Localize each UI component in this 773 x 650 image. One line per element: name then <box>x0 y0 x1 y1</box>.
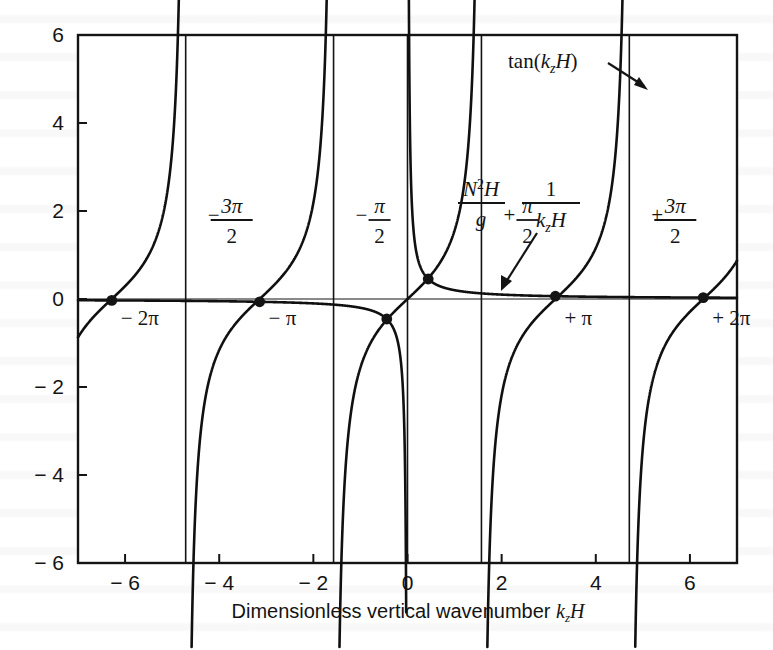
y-axis-tick-labels: − 6− 4− 20246 <box>34 23 64 574</box>
frac2-numerator: 1 <box>546 177 557 201</box>
intersection-dot <box>423 274 434 285</box>
fraction-denominator: 2 <box>522 224 533 248</box>
frac1-exponent: 2 <box>477 177 484 192</box>
x-tick-label: − 6 <box>110 571 140 594</box>
root-label-pos-pi: + π <box>564 306 592 330</box>
root-label-pos-2pi: + 2π <box>712 306 751 330</box>
y-tick-label: 0 <box>52 287 64 310</box>
x-tick-label: − 4 <box>204 571 234 594</box>
fraction-sign: + <box>503 203 515 227</box>
fraction-denominator: 2 <box>226 224 237 248</box>
fraction-numerator: π <box>522 194 533 218</box>
frac1-H: H <box>483 177 501 201</box>
fraction-denominator: 2 <box>670 224 681 248</box>
intersection-dot <box>698 292 709 303</box>
intersection-dot <box>254 296 265 307</box>
y-tick-label: − 2 <box>34 375 64 398</box>
fraction-numerator: π <box>374 194 385 218</box>
fraction-numerator: 3π <box>664 194 687 218</box>
y-tick-label: 4 <box>52 111 64 134</box>
intersection-dot <box>381 314 392 325</box>
tan-label-prefix: tan( <box>508 49 541 73</box>
root-label-neg-2pi: − 2π <box>121 306 160 330</box>
y-tick-label: 6 <box>52 23 64 46</box>
frac1-denominator: g <box>476 207 487 231</box>
intersection-dot <box>106 295 117 306</box>
x-tick-label: 0 <box>402 571 414 594</box>
x-axis-title-H: H <box>569 600 586 622</box>
x-tick-label: 4 <box>590 571 602 594</box>
x-axis-title-words: Dimensionless vertical wavenumber <box>232 600 551 622</box>
x-tick-label: − 2 <box>298 571 328 594</box>
y-tick-label: 2 <box>52 199 64 222</box>
frac2-denominator: kzH <box>536 208 568 235</box>
tan-annotation-text: tan(kzH) <box>508 49 578 76</box>
fraction-numerator: 3π <box>220 194 243 218</box>
fraction-sign: + <box>651 203 663 227</box>
x-axis-tick-labels: − 6− 4− 20246 <box>110 571 696 594</box>
y-tick-label: − 4 <box>34 463 64 486</box>
fraction-sign: − <box>208 203 220 227</box>
x-tick-label: 6 <box>684 571 696 594</box>
x-axis-title: Dimensionless vertical wavenumber kzH <box>232 600 587 625</box>
intersection-dot <box>550 291 561 302</box>
root-label-neg-pi: − π <box>269 306 297 330</box>
fraction-sign: − <box>356 203 368 227</box>
frac2-H: H <box>550 208 568 232</box>
y-tick-label: − 6 <box>34 551 64 574</box>
x-tick-label: 2 <box>496 571 508 594</box>
fraction-denominator: 2 <box>374 224 385 248</box>
tan-label-suffix: ) <box>571 49 578 73</box>
figure-canvas: − 6− 4− 20246 − 6− 4− 20246 −3π2−π2+π2+3… <box>0 0 773 650</box>
frac1-N: N <box>462 177 478 201</box>
